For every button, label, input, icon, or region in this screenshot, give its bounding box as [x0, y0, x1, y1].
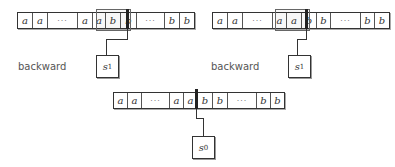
tape-cell: a — [114, 93, 128, 108]
tape-cell: b — [375, 13, 389, 28]
connector-line — [203, 118, 204, 136]
tape-cell-ellipsis: ··· — [142, 93, 170, 108]
state-box: s0 — [192, 136, 215, 159]
tape-cell: b — [213, 93, 228, 108]
direction-label: backward — [211, 61, 259, 72]
tape-head-marker — [305, 9, 308, 29]
tape-cell: a — [213, 13, 228, 28]
tape-cell: a — [228, 13, 243, 28]
tape-cell: a — [170, 93, 184, 108]
tape-cell: b — [257, 93, 271, 108]
connector-line — [297, 39, 307, 40]
tape-cell: b — [198, 93, 213, 108]
tape-cell-ellipsis: ··· — [243, 13, 273, 28]
tape-cell: b — [361, 13, 375, 28]
tape-cell: a — [78, 13, 93, 28]
tape-bottom: a a ··· a a b b ··· b b — [113, 92, 285, 109]
direction-label: backward — [18, 61, 66, 72]
tape-cell: a — [18, 13, 33, 28]
tape-cell-ellipsis: ··· — [137, 13, 165, 28]
tape-cell: b — [180, 13, 194, 28]
connector-line — [297, 39, 298, 55]
tape-cell-ellipsis: ··· — [228, 93, 257, 108]
tape-head-marker — [195, 89, 198, 109]
state-subscript: 1 — [300, 63, 304, 71]
connector-line — [196, 109, 197, 118]
state-subscript: 1 — [108, 63, 112, 71]
tape-cell: b — [317, 13, 331, 28]
state-box: s1 — [96, 55, 119, 78]
tape-head-marker — [126, 9, 129, 29]
connector-line — [196, 118, 203, 119]
tape-cell: a — [33, 13, 48, 28]
tape-cell: a — [128, 93, 142, 108]
connector-line — [106, 39, 128, 40]
state-subscript: 0 — [204, 144, 208, 152]
tape-cell: b — [165, 13, 180, 28]
tape-cell-ellipsis: ··· — [331, 13, 361, 28]
connector-line — [106, 39, 107, 55]
tape-cell: b — [271, 93, 284, 108]
state-box: s1 — [288, 55, 311, 78]
tape-cell-ellipsis: ··· — [48, 13, 78, 28]
